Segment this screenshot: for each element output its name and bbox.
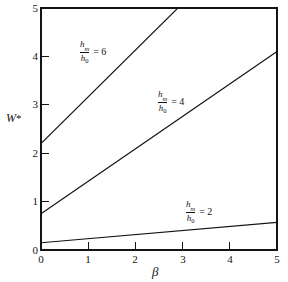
fraction-denominator: h0	[158, 102, 168, 113]
y-axis-title-star: *	[16, 112, 22, 124]
y-tick-label-3: 3	[22, 99, 38, 110]
curve-label-hm-h0-2: hm h0 = 2	[185, 200, 212, 223]
x-tick-label-2: 2	[127, 254, 143, 265]
x-tick-label-4: 4	[222, 254, 238, 265]
fraction-hm-h0: hm h0	[79, 40, 90, 63]
fraction-numerator: hm	[157, 90, 168, 102]
y-axis-title-text: W	[6, 111, 16, 125]
plot-area	[0, 0, 288, 282]
numerator-symbol: h	[158, 89, 163, 99]
y-tick-label-1: 1	[22, 196, 38, 207]
fraction-numerator: hm	[185, 200, 196, 212]
x-axis-title: β	[152, 266, 158, 278]
curve-label-hm-h0-6: hm h0 = 6	[79, 40, 106, 63]
fraction-denominator: h0	[186, 212, 196, 223]
y-tick-label-4: 4	[22, 51, 38, 62]
x-tick-label-0: 0	[33, 254, 49, 265]
fraction-hm-h0: hm h0	[157, 90, 168, 113]
curve-value-2: = 2	[199, 206, 212, 217]
x-tick-label-1: 1	[80, 254, 96, 265]
y-tick-label-5: 5	[22, 3, 38, 14]
curve-value-4: = 4	[171, 96, 184, 107]
x-tick-label-5: 5	[269, 254, 285, 265]
curve-value-6: = 6	[93, 46, 106, 57]
numerator-subscript: m	[85, 45, 90, 52]
fraction-hm-h0: hm h0	[185, 200, 196, 223]
numerator-subscript: m	[163, 95, 168, 102]
denominator-subscript: 0	[191, 217, 194, 224]
denominator-subscript: 0	[85, 57, 88, 64]
denominator-subscript: 0	[163, 107, 166, 114]
numerator-symbol: h	[186, 199, 191, 209]
curve-label-hm-h0-4: hm h0 = 4	[157, 90, 184, 113]
y-tick-label-2: 2	[22, 148, 38, 159]
y-axis-title: W*	[6, 112, 22, 124]
axes-frame	[41, 8, 277, 250]
x-tick-label-3: 3	[175, 254, 191, 265]
fraction-numerator: hm	[79, 40, 90, 52]
numerator-subscript: m	[191, 205, 196, 212]
numerator-symbol: h	[80, 39, 85, 49]
fraction-denominator: h0	[80, 52, 90, 63]
figure-canvas: 0 1 2 3 4 5 0 1 2 3 4 5 W* β hm h0 = 6 h…	[0, 0, 288, 282]
